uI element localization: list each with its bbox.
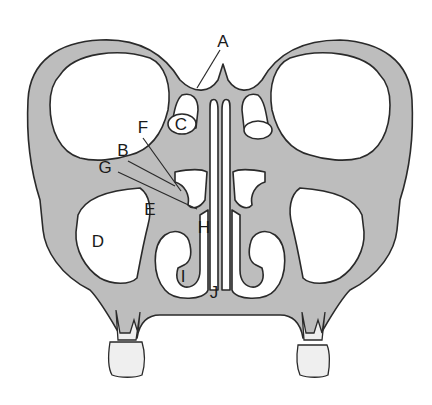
- label-D: D: [92, 233, 104, 250]
- label-B: B: [117, 142, 128, 159]
- label-E: E: [144, 201, 155, 218]
- sinus-diagram: [0, 0, 432, 405]
- label-J: J: [210, 284, 219, 301]
- right-ethmoid-cell: [244, 121, 272, 139]
- label-F: F: [138, 119, 148, 136]
- label-C: C: [175, 116, 187, 133]
- septum-left-slit: [210, 99, 218, 290]
- left-orbit-cavity: [50, 53, 169, 160]
- label-G: G: [98, 159, 111, 176]
- septum-right-slit: [222, 99, 230, 290]
- label-H: H: [198, 219, 210, 236]
- right-orbit-cavity: [271, 53, 390, 160]
- label-A: A: [217, 33, 228, 50]
- label-I: I: [181, 268, 186, 285]
